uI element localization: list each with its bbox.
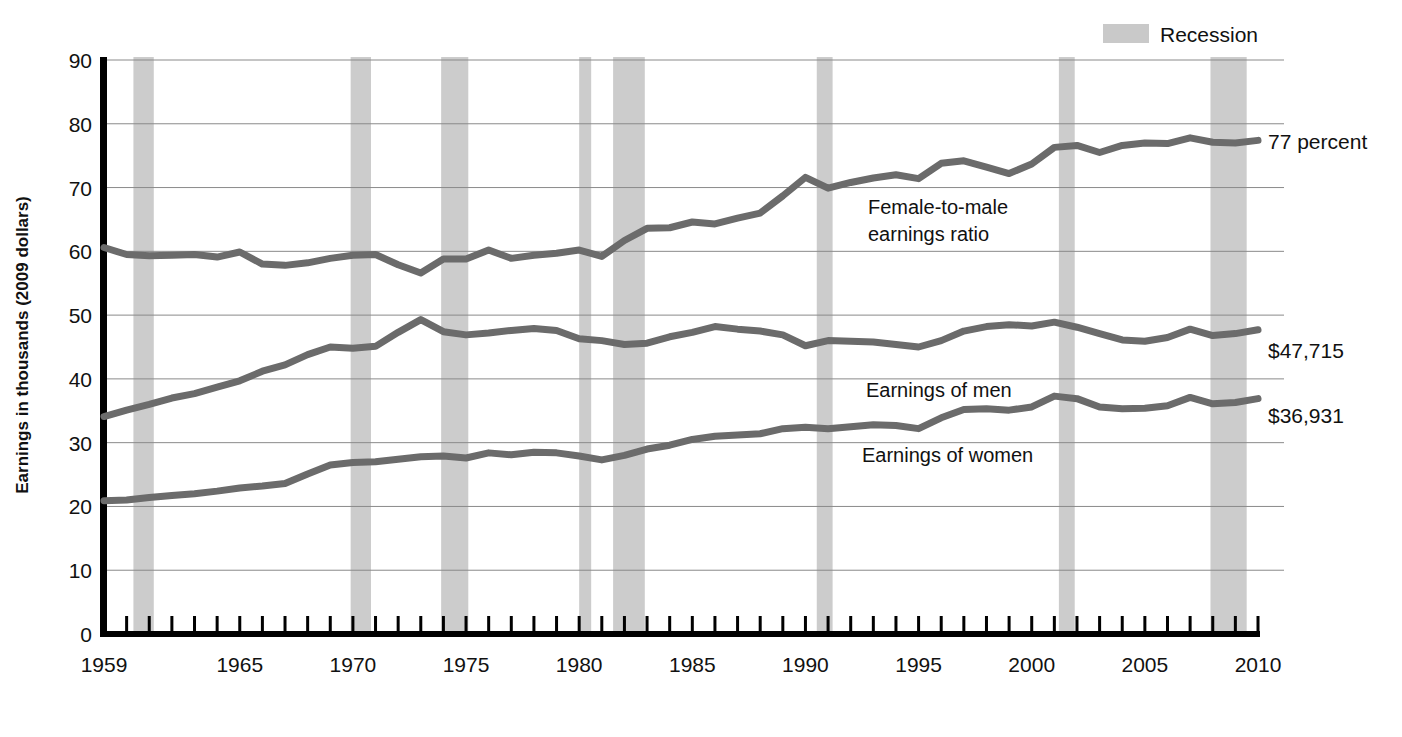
x-tick-label: 1995 (895, 653, 942, 676)
recession-band (579, 57, 591, 634)
x-tick-mark (985, 616, 988, 634)
x-tick-mark (306, 616, 309, 634)
x-tick-mark (1143, 616, 1146, 634)
x-tick-mark (849, 616, 852, 634)
x-tick-mark (532, 616, 535, 634)
x-tick-label: 1970 (330, 653, 377, 676)
recession-band (441, 57, 468, 634)
x-tick-mark (351, 616, 354, 634)
series-line (104, 138, 1258, 273)
x-tick-mark (1053, 616, 1056, 634)
x-tick-mark (940, 616, 943, 634)
x-tick-mark (216, 616, 219, 634)
end-label-women: $36,931 (1268, 404, 1344, 427)
end-label-ratio: 77 percent (1268, 130, 1367, 153)
x-tick-mark (1008, 616, 1011, 634)
x-tick-mark (691, 616, 694, 634)
x-tick-mark (1030, 616, 1033, 634)
y-tick-label: 0 (80, 623, 92, 646)
x-tick-label: 2010 (1235, 653, 1282, 676)
y-tick-label: 60 (69, 240, 92, 263)
x-tick-mark (284, 616, 287, 634)
recession-legend-swatch (1103, 24, 1149, 43)
x-tick-mark (578, 616, 581, 634)
x-tick-mark (1098, 616, 1101, 634)
x-tick-mark (329, 616, 332, 634)
y-tick-label: 90 (69, 49, 92, 72)
y-tick-label: 50 (69, 304, 92, 327)
x-tick-mark (668, 616, 671, 634)
legend: Recession (1103, 23, 1258, 46)
recession-band (133, 57, 153, 634)
x-tick-mark (465, 616, 468, 634)
y-axis-line (100, 57, 107, 637)
x-tick-mark (442, 616, 445, 634)
x-tick-mark (759, 616, 762, 634)
x-tick-label: 2000 (1008, 653, 1055, 676)
x-tick-label: 1990 (782, 653, 829, 676)
y-tick-label: 20 (69, 495, 92, 518)
y-tick-label: 10 (69, 559, 92, 582)
x-tick-label: 1975 (443, 653, 490, 676)
x-tick-mark (374, 616, 377, 634)
y-tick-label: 80 (69, 113, 92, 136)
end-labels: 77 percent $47,715 $36,931 (1268, 130, 1367, 427)
x-tick-mark (781, 616, 784, 634)
data-series-group (104, 138, 1258, 501)
x-tick-mark (646, 616, 649, 634)
x-tick-mark (1166, 616, 1169, 634)
x-axis-ticks: 1959196519701975198019851990199520002005… (81, 616, 1282, 676)
x-tick-label: 1980 (556, 653, 603, 676)
x-tick-mark (238, 616, 241, 634)
x-tick-label: 1965 (216, 653, 263, 676)
x-tick-label: 1985 (669, 653, 716, 676)
x-tick-mark (261, 616, 264, 634)
x-tick-mark (713, 616, 716, 634)
x-tick-mark (600, 616, 603, 634)
x-tick-mark (1211, 616, 1214, 634)
x-tick-mark (827, 616, 830, 634)
x-tick-mark (397, 616, 400, 634)
x-tick-mark (148, 616, 151, 634)
series-line (104, 396, 1258, 501)
recession-legend-label: Recession (1160, 23, 1258, 46)
x-tick-label: 2005 (1122, 653, 1169, 676)
x-tick-label: 1959 (81, 653, 128, 676)
annotation-men: Earnings of men (866, 379, 1012, 401)
end-label-men: $47,715 (1268, 339, 1344, 362)
x-axis-line (100, 631, 1260, 637)
y-axis-title: Earnings in thousands (2009 dollars) (13, 196, 32, 494)
x-tick-mark (125, 616, 128, 634)
x-tick-mark (804, 616, 807, 634)
annotation-ratio-line1: Female-to-male (868, 196, 1008, 218)
x-tick-mark (170, 616, 173, 634)
x-tick-mark (1189, 616, 1192, 634)
y-axis-ticks: 0102030405060708090 (69, 49, 92, 646)
x-tick-mark (1075, 616, 1078, 634)
x-tick-mark (1257, 616, 1260, 634)
x-tick-mark (419, 616, 422, 634)
x-tick-mark (555, 616, 558, 634)
x-tick-mark (193, 616, 196, 634)
x-tick-mark (1121, 616, 1124, 634)
y-tick-label: 30 (69, 432, 92, 455)
x-tick-mark (623, 616, 626, 634)
x-tick-mark (962, 616, 965, 634)
x-tick-mark (736, 616, 739, 634)
x-tick-mark (487, 616, 490, 634)
annotation-ratio-line2: earnings ratio (868, 223, 989, 245)
y-tick-label: 70 (69, 177, 92, 200)
x-tick-mark (872, 616, 875, 634)
x-tick-mark (894, 616, 897, 634)
x-tick-mark (510, 616, 513, 634)
earnings-chart-figure: Recession 0102030405060708090 1959196519… (0, 0, 1402, 737)
annotation-women: Earnings of women (862, 444, 1033, 466)
y-tick-label: 40 (69, 368, 92, 391)
x-tick-mark (1234, 616, 1237, 634)
x-tick-mark (917, 616, 920, 634)
x-tick-mark (103, 616, 106, 634)
chart-canvas: Recession 0102030405060708090 1959196519… (0, 0, 1402, 737)
gridlines-group (104, 60, 1284, 570)
